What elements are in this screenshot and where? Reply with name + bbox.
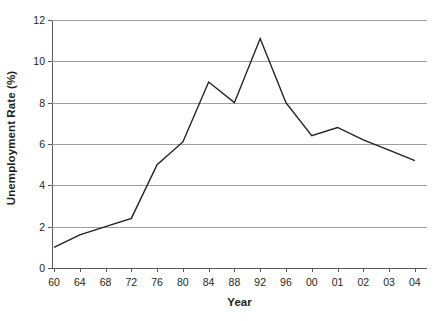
plot-area	[52, 20, 427, 268]
x-tick-mark-02	[363, 268, 364, 272]
x-tick-mark-64	[80, 268, 81, 272]
y-tick-label-12: 12	[17, 14, 45, 26]
x-tick-mark-76	[157, 268, 158, 272]
x-tick-mark-88	[234, 268, 235, 272]
y-tick-label-10: 10	[17, 55, 45, 67]
x-tick-mark-04	[415, 268, 416, 272]
unemployment-rate-line-chart: Unemployment Rate (%) 024681012 60646872…	[0, 0, 437, 321]
x-axis-line	[52, 268, 427, 269]
y-tick-label-0: 0	[17, 262, 45, 274]
x-tick-mark-68	[106, 268, 107, 272]
x-tick-mark-00	[312, 268, 313, 272]
x-tick-mark-72	[131, 268, 132, 272]
y-tick-label-4: 4	[17, 179, 45, 191]
x-tick-mark-60	[54, 268, 55, 272]
y-axis-title-label: Unemployment Rate (%)	[5, 70, 17, 204]
x-tick-mark-80	[183, 268, 184, 272]
x-tick-mark-92	[260, 268, 261, 272]
y-tick-label-8: 8	[17, 97, 45, 109]
y-tick-label-2: 2	[17, 221, 45, 233]
y-tick-mark-0	[48, 268, 52, 269]
x-tick-mark-96	[286, 268, 287, 272]
x-tick-label-04: 04	[395, 276, 435, 288]
series-line-unemployment-rate	[52, 20, 427, 268]
x-tick-mark-01	[338, 268, 339, 272]
x-tick-mark-03	[389, 268, 390, 272]
y-tick-label-6: 6	[17, 138, 45, 150]
x-axis-title: Year	[52, 296, 427, 308]
x-tick-mark-84	[209, 268, 210, 272]
